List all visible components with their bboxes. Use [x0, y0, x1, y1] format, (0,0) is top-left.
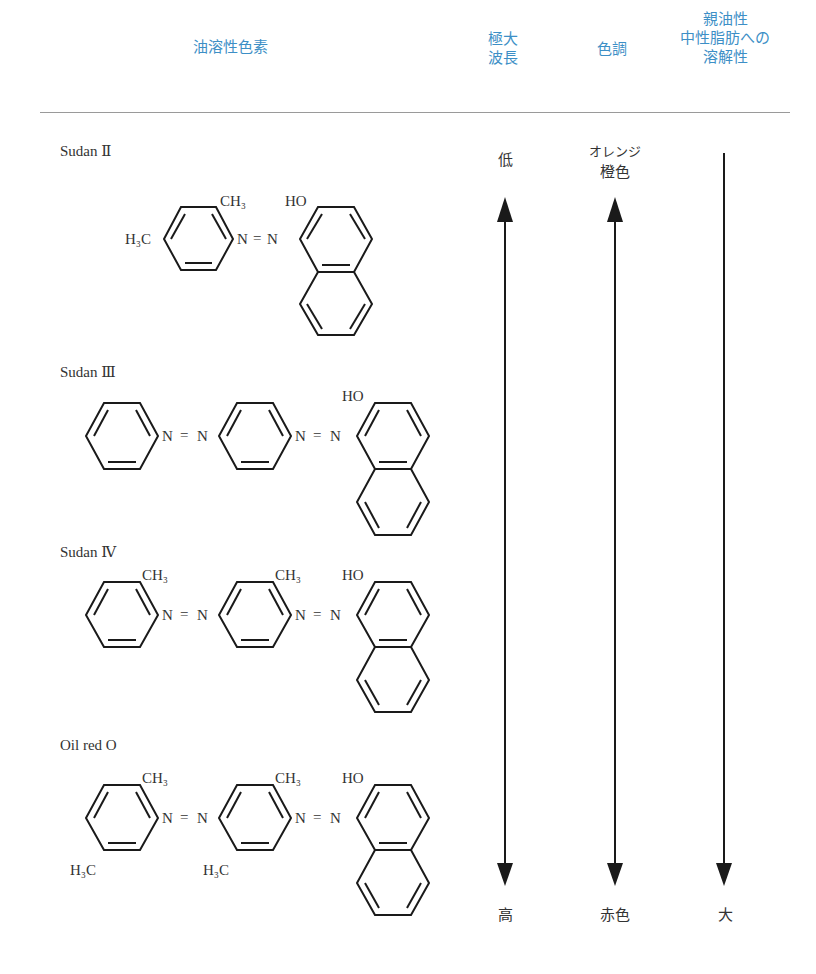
- sudan-3-n1: N: [162, 428, 173, 444]
- sudan-4-eq2: =: [313, 606, 321, 622]
- sudan-4-ch3-1: CH₃: [142, 567, 168, 583]
- lipophilicity-arrow: [716, 153, 732, 886]
- sudan-3-n3: N: [295, 428, 306, 444]
- oil-red-o-ch3-1: CH₃: [142, 770, 168, 786]
- tone-arrow: [607, 197, 623, 886]
- oil-red-o-n3: N: [295, 810, 306, 826]
- sudan-2-ho: HO: [285, 193, 307, 209]
- sudan-4-labels: CH₃ CH₃ HO N = N N = N: [142, 567, 364, 623]
- sudan-3-eq2: =: [313, 427, 321, 443]
- sudan-2-ch3: CH₃: [220, 193, 246, 209]
- oil-red-o-labels: CH₃ CH₃ HO H₃C H₃C N = N N = N: [70, 770, 364, 878]
- oil-red-o-ch3-2: CH₃: [275, 770, 301, 786]
- structure-sudan-3: [86, 403, 429, 535]
- wavelength-arrow: [497, 197, 513, 886]
- oil-red-o-n1: N: [162, 810, 173, 826]
- oil-red-o-ho: HO: [342, 770, 364, 786]
- oil-red-o-n2: N: [197, 810, 208, 826]
- oil-red-o-eq1: =: [180, 809, 188, 825]
- sudan-4-n3: N: [295, 607, 306, 623]
- sudan-3-labels: HO N = N N = N: [162, 388, 364, 444]
- structure-sudan-2: [164, 207, 372, 335]
- sudan-3-n4: N: [330, 428, 341, 444]
- sudan-3-eq1: =: [180, 427, 188, 443]
- oil-red-o-h3c-2: H₃C: [203, 862, 229, 878]
- sudan-4-ch3-2: CH₃: [275, 567, 301, 583]
- sudan-4-n4: N: [330, 607, 341, 623]
- oil-red-o-h3c-1: H₃C: [70, 862, 96, 878]
- sudan-4-n2: N: [197, 607, 208, 623]
- sudan-4-n1: N: [162, 607, 173, 623]
- sudan-2-n2: N: [267, 231, 278, 247]
- oil-red-o-eq2: =: [313, 809, 321, 825]
- oil-red-o-n4: N: [330, 810, 341, 826]
- sudan-4-eq1: =: [180, 606, 188, 622]
- sudan-4-ho: HO: [342, 567, 364, 583]
- sudan-2-eq: =: [253, 230, 261, 246]
- sudan-3-ho: HO: [342, 388, 364, 404]
- structures-diagram: CH₃ H₃C HO N = N HO N = N N = N: [0, 0, 816, 974]
- sudan-2-n1: N: [237, 231, 248, 247]
- sudan-3-n2: N: [197, 428, 208, 444]
- structure-sudan-4: [86, 582, 429, 712]
- sudan-2-h3c: H₃C: [125, 231, 151, 247]
- structure-oil-red-o: [86, 785, 429, 915]
